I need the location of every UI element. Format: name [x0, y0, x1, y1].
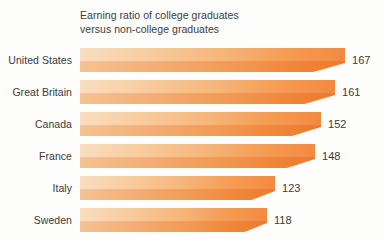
- bar-row: France148: [0, 144, 385, 168]
- category-label: Sweden: [0, 208, 80, 232]
- bar: [80, 176, 275, 200]
- bar-shadow-band: [80, 62, 345, 72]
- bar-seam-line: [80, 125, 321, 126]
- bar-value-label: 123: [282, 176, 301, 200]
- bar-seam-line: [80, 189, 275, 190]
- category-label: Italy: [0, 176, 80, 200]
- bar-shadow-band: [80, 190, 275, 200]
- bar-seam-line: [80, 221, 267, 222]
- bar-value-label: 161: [342, 80, 361, 104]
- bar-highlight-band: [80, 144, 315, 158]
- bar-fill: [80, 208, 267, 232]
- category-label: United States: [0, 48, 80, 72]
- bar-fill: [80, 80, 335, 104]
- bar-row: Great Britain161: [0, 80, 385, 104]
- bar-row: Canada152: [0, 112, 385, 136]
- bar-fill: [80, 176, 275, 200]
- bar-fill: [80, 48, 345, 72]
- category-label: France: [0, 144, 80, 168]
- bar-fill: [80, 144, 315, 168]
- bar-shadow-band: [80, 126, 321, 136]
- bar-row: Italy123: [0, 176, 385, 200]
- bar-chart-figure: Earning ratio of college graduates versu…: [0, 0, 385, 240]
- bar-shadow-band: [80, 94, 335, 104]
- bar-value-label: 148: [322, 144, 341, 168]
- bar-highlight-band: [80, 208, 267, 222]
- bar-row: United States167: [0, 48, 385, 72]
- bar-value-label: 118: [274, 208, 292, 232]
- bar-highlight-band: [80, 112, 321, 126]
- bar-value-label: 152: [328, 112, 347, 136]
- bar-value-label: 167: [352, 48, 371, 72]
- bar-seam-line: [80, 157, 315, 158]
- chart-title: Earning ratio of college graduates versu…: [80, 9, 239, 36]
- bar-highlight-band: [80, 176, 275, 190]
- bar: [80, 80, 335, 104]
- bar-seam-line: [80, 61, 345, 62]
- chart-plot-area: United States167Great Britain161Canada15…: [0, 46, 385, 240]
- bar-shadow-band: [80, 222, 267, 232]
- bar-fill: [80, 112, 321, 136]
- bar: [80, 144, 315, 168]
- bar-row: Sweden118: [0, 208, 385, 232]
- bar: [80, 48, 345, 72]
- category-label: Canada: [0, 112, 80, 136]
- bar: [80, 112, 321, 136]
- bar-highlight-band: [80, 48, 345, 62]
- category-label: Great Britain: [0, 80, 80, 104]
- bar-highlight-band: [80, 80, 335, 94]
- bar-seam-line: [80, 93, 335, 94]
- bar: [80, 208, 267, 232]
- bar-shadow-band: [80, 158, 315, 168]
